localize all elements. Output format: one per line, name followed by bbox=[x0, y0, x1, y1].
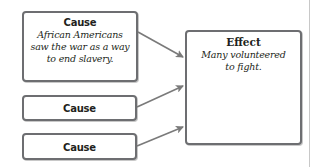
arrow-right-icon bbox=[137, 127, 183, 146]
arrow-right-icon bbox=[137, 86, 183, 107]
connector-arrows bbox=[0, 0, 322, 167]
arrow-right-icon bbox=[138, 32, 183, 57]
page-divider bbox=[309, 0, 310, 167]
